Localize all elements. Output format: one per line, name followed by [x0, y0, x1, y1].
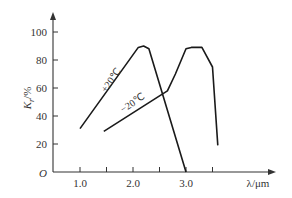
x-tick-label: 2.0	[126, 177, 140, 189]
y-tick-label: 100	[31, 26, 48, 38]
series-line-minus20c	[104, 47, 218, 145]
x-tick-label: 3.0	[179, 177, 193, 189]
y-axis-label: Kr/%	[21, 87, 36, 111]
y-tick-label: 20	[36, 138, 48, 150]
chart-container: 204060801001.02.03.0Oλ/μmKr/%+20℃−20℃	[0, 0, 292, 198]
axis-labels: 204060801001.02.03.0Oλ/μmKr/%+20℃−20℃	[21, 26, 270, 189]
x-axis-label: λ/μm	[247, 177, 270, 189]
y-tick-label: 80	[36, 54, 48, 66]
series-line-plus20c	[80, 46, 186, 172]
data-series	[80, 46, 218, 172]
origin-label: O	[39, 167, 47, 179]
line-chart: 204060801001.02.03.0Oλ/μmKr/%+20℃−20℃	[0, 0, 292, 198]
y-tick-label: 60	[36, 82, 48, 94]
y-tick-label: 40	[36, 110, 48, 122]
series-label-plus20c: +20℃	[99, 66, 123, 94]
x-tick-label: 1.0	[73, 177, 87, 189]
series-label-minus20c: −20℃	[118, 91, 146, 115]
